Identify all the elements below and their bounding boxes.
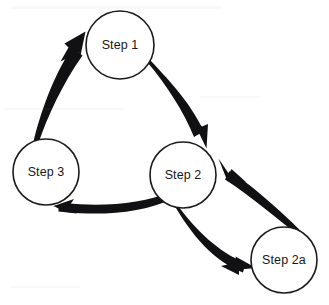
edge-step1-step2 (148, 60, 209, 149)
node-step3[interactable]: Step 3 (13, 139, 79, 205)
node-step3-label: Step 3 (28, 165, 65, 179)
node-step2[interactable]: Step 2 (150, 142, 216, 208)
edge-step2-step2a-body (175, 204, 246, 273)
flowchart-svg: Step 1 Step 3 Step 2 Step 2a (0, 0, 329, 305)
diagram-canvas: Step 1 Step 3 Step 2 Step 2a (0, 0, 329, 305)
edge-step2a-step2 (219, 159, 306, 239)
node-step2-label: Step 2 (165, 168, 202, 182)
node-step2a[interactable]: Step 2a (251, 227, 317, 293)
edge-step2-step2a (175, 204, 257, 275)
edge-step3-step1 (34, 32, 86, 144)
edge-step2-step3 (54, 192, 173, 214)
node-step1-label: Step 1 (102, 38, 139, 52)
edge-step3-step1-body (34, 48, 83, 143)
node-step1[interactable]: Step 1 (86, 11, 154, 79)
node-step2a-label: Step 2a (262, 253, 306, 267)
